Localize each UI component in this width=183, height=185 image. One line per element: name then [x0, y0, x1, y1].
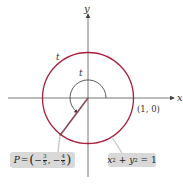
leader-line-circle [112, 137, 122, 153]
comma: , [48, 155, 51, 165]
x-axis-label: x [177, 92, 183, 103]
circle-equation-box: x2 + y2 = 1 [108, 153, 156, 167]
x-denominator: 5 [43, 161, 47, 167]
inner-angle-label-t: t [79, 68, 83, 78]
right-paren: ) [66, 155, 71, 165]
point-P-label-box: P = ( − 3 5 , − 4 5 ) [10, 152, 75, 168]
y-fraction: 4 5 [61, 154, 65, 166]
eq-rhs: = 1 [138, 155, 157, 165]
point-P-name: P [14, 155, 20, 165]
y-sign: − [53, 155, 61, 165]
outer-arc-label-t: t [56, 52, 60, 62]
x-fraction: 3 5 [43, 154, 47, 166]
x-sign: − [34, 155, 42, 165]
y-axis-label: y [83, 3, 90, 14]
equals-sign: = [21, 155, 29, 165]
terminal-radius [61, 98, 88, 134]
point-1-0-label: (1, 0) [137, 104, 160, 114]
point-P-marker [59, 133, 62, 136]
leader-line-P [58, 135, 60, 152]
y-denominator: 5 [62, 161, 66, 167]
eq-plus: + [116, 155, 129, 165]
